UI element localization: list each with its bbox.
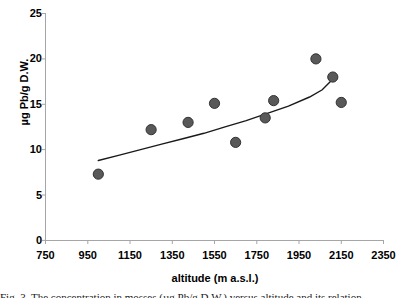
x-axis-title: altitude (m a.s.l.) bbox=[45, 272, 385, 284]
x-tick-label: 2350 bbox=[371, 250, 395, 261]
x-tick-label: 1550 bbox=[202, 250, 226, 261]
y-axis-title: µg Pb/g D.W. bbox=[18, 32, 30, 152]
figure-caption-clipped: Fig. 3. The concentration in mosses (µg … bbox=[0, 291, 409, 298]
x-tick-label: 2150 bbox=[329, 250, 353, 261]
x-axis-tick-labels: 750 950 1150 1350 1550 1750 1950 2150 23… bbox=[0, 0, 409, 298]
x-tick-label: 1350 bbox=[160, 250, 184, 261]
x-tick-label: 950 bbox=[79, 250, 97, 261]
x-tick-label: 1950 bbox=[287, 250, 311, 261]
x-tick-label: 1150 bbox=[118, 250, 142, 261]
chart-container: 25 20 15 10 5 0 750 950 1150 1350 1550 1… bbox=[0, 0, 409, 298]
x-tick-label: 1750 bbox=[245, 250, 269, 261]
x-tick-label: 750 bbox=[36, 250, 54, 261]
